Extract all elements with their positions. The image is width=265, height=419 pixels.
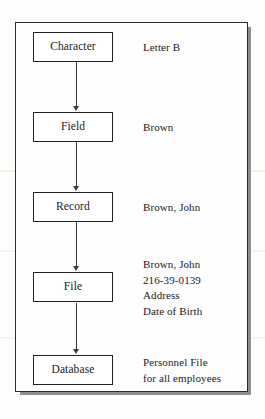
node-label-file: File	[64, 281, 82, 293]
example-text-field: Brown	[143, 120, 173, 136]
example-text-record: Brown, John	[143, 200, 200, 216]
example-text-character: Letter B	[143, 40, 180, 56]
arrow-shaft	[76, 222, 77, 267]
arrow-head	[73, 186, 79, 191]
frame-drop-shadow-right	[248, 27, 251, 395]
arrow-record-to-file	[72, 222, 81, 272]
node-box-field[interactable]: Field	[33, 112, 113, 142]
node-box-file[interactable]: File	[33, 272, 113, 302]
example-text-file: Brown, John 216-39-0139 Address Date of …	[143, 257, 202, 319]
arrow-shaft	[76, 303, 77, 350]
node-label-character: Character	[50, 41, 96, 53]
scanned-page-canvas: Character Letter B Field Brown Record Br…	[0, 0, 265, 419]
frame-drop-shadow-bottom	[20, 392, 251, 395]
node-box-record[interactable]: Record	[33, 192, 113, 222]
node-box-character[interactable]: Character	[33, 32, 113, 62]
node-label-database: Database	[52, 364, 95, 376]
arrow-shaft	[76, 62, 77, 107]
node-box-database[interactable]: Database	[33, 355, 113, 385]
arrow-shaft	[76, 142, 77, 187]
arrow-head	[73, 106, 79, 111]
arrow-head	[73, 266, 79, 271]
arrow-character-to-field	[72, 62, 81, 112]
node-label-record: Record	[56, 201, 90, 213]
example-text-database: Personnel File for all employees	[143, 355, 221, 386]
arrow-field-to-record	[72, 142, 81, 192]
arrow-file-to-database	[72, 303, 81, 355]
node-label-field: Field	[61, 121, 85, 133]
arrow-head	[73, 349, 79, 354]
